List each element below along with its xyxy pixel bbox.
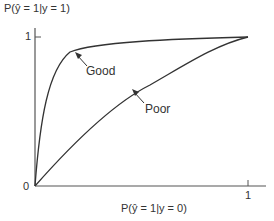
good-arrowhead-icon <box>75 52 82 59</box>
poor-label: Poor <box>145 102 170 116</box>
good-curve <box>35 37 248 186</box>
origin-label: 0 <box>23 180 29 192</box>
x-tick-label-1: 1 <box>245 189 251 201</box>
poor-curve <box>35 37 248 186</box>
y-tick-label-1: 1 <box>25 30 31 42</box>
roc-chart <box>0 0 274 221</box>
x-axis-title: P(ŷ = 1|y = 0) <box>121 202 187 214</box>
y-axis-title: P(ŷ = 1|y = 1) <box>4 2 70 14</box>
good-label: Good <box>86 64 115 78</box>
